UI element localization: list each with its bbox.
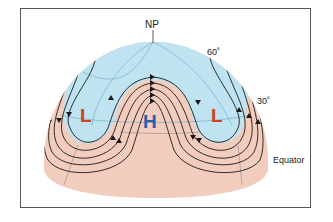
latitude-30-label: 30˚: [257, 96, 270, 106]
low-pressure-left-label: L: [80, 105, 92, 126]
high-pressure-label: H: [143, 111, 157, 132]
equator-label: Equator: [273, 155, 305, 165]
north-pole-label: NP: [145, 19, 159, 30]
hemisphere-diagram: NP 60˚ 30˚ Equator L H L: [0, 0, 333, 222]
latitude-60-label: 60˚: [207, 47, 220, 57]
low-pressure-right-label: L: [211, 105, 223, 126]
